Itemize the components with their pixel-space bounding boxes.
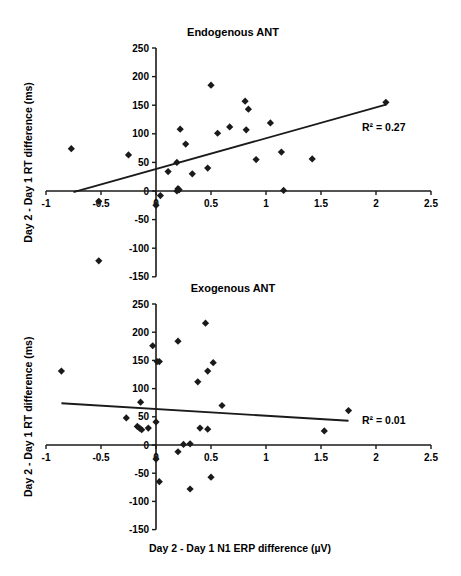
data-point xyxy=(309,155,316,162)
data-point xyxy=(182,140,189,147)
data-point xyxy=(165,168,172,175)
y-tick-label: 100 xyxy=(132,128,149,139)
data-point xyxy=(245,106,252,113)
x-tick-label: -0.5 xyxy=(92,452,110,463)
y-tick-label: -150 xyxy=(129,524,149,535)
endogenous-ant-chart: Endogenous ANT250200150100500-50-100-150… xyxy=(22,26,438,282)
data-point xyxy=(145,424,152,431)
data-point xyxy=(180,441,187,448)
figure: Endogenous ANT250200150100500-50-100-150… xyxy=(0,0,461,576)
data-point xyxy=(204,165,211,172)
y-tick-label: -150 xyxy=(129,271,149,282)
y-axis-label: Day 2 - Day 1 RT difference (ms) xyxy=(22,82,34,242)
data-point xyxy=(196,424,203,431)
data-point xyxy=(152,418,159,425)
x-tick-label: 2.5 xyxy=(424,198,438,209)
y-tick-label: 200 xyxy=(132,327,149,338)
data-point xyxy=(68,145,75,152)
x-tick-label: 1 xyxy=(263,452,269,463)
data-point xyxy=(204,426,211,433)
y-tick-label: 250 xyxy=(132,43,149,54)
x-tick-label: 0.5 xyxy=(204,198,218,209)
data-point xyxy=(207,474,214,481)
data-point xyxy=(95,257,102,264)
data-point xyxy=(177,126,184,133)
r-squared-label: R² = 0.27 xyxy=(362,121,406,133)
r-squared-label: R² = 0.01 xyxy=(362,414,406,426)
data-point xyxy=(214,130,221,137)
x-tick-label: 0.5 xyxy=(204,452,218,463)
data-point xyxy=(321,427,328,434)
data-point xyxy=(58,368,65,375)
y-tick-label: -100 xyxy=(129,243,149,254)
data-point xyxy=(218,402,225,409)
y-tick-label: -100 xyxy=(129,496,149,507)
data-point xyxy=(267,119,274,126)
data-point xyxy=(202,320,209,327)
chart-title: Endogenous ANT xyxy=(187,26,279,38)
x-tick-label: -0.5 xyxy=(92,198,110,209)
x-tick-label: 2 xyxy=(373,198,379,209)
data-point xyxy=(173,159,180,166)
data-point xyxy=(137,399,144,406)
data-point xyxy=(210,359,217,366)
x-tick-label: 1.5 xyxy=(314,198,328,209)
data-point xyxy=(204,368,211,375)
data-point xyxy=(174,448,181,455)
x-tick-label: 2.5 xyxy=(424,452,438,463)
y-tick-label: -50 xyxy=(135,468,150,479)
data-point xyxy=(207,82,214,89)
data-point xyxy=(123,414,130,421)
x-tick-label: -1 xyxy=(42,452,51,463)
data-point xyxy=(187,485,194,492)
data-point xyxy=(278,149,285,156)
y-tick-label: 200 xyxy=(132,71,149,82)
data-point xyxy=(242,98,249,105)
data-point xyxy=(243,126,250,133)
trendline xyxy=(74,105,386,193)
data-point xyxy=(345,407,352,414)
data-point xyxy=(125,151,132,158)
y-tick-label: 50 xyxy=(138,157,150,168)
y-tick-label: 100 xyxy=(132,383,149,394)
data-point xyxy=(174,338,181,345)
y-tick-label: 150 xyxy=(132,355,149,366)
y-tick-label: -50 xyxy=(135,214,150,225)
data-point xyxy=(280,187,287,194)
y-tick-label: 250 xyxy=(132,299,149,310)
x-axis-label: Day 2 - Day 1 N1 ERP difference (µV) xyxy=(149,542,331,554)
x-tick-label: 1.5 xyxy=(314,452,328,463)
data-point xyxy=(253,156,260,163)
exogenous-ant-chart: Exogenous ANT250200150100500-50-100-150-… xyxy=(22,282,438,554)
data-point xyxy=(226,123,233,130)
chart-title: Exogenous ANT xyxy=(191,282,276,294)
x-tick-label: -1 xyxy=(42,198,51,209)
data-point xyxy=(187,440,194,447)
trendline xyxy=(61,403,348,420)
data-point xyxy=(194,378,201,385)
y-tick-label: 150 xyxy=(132,100,149,111)
x-tick-label: 1 xyxy=(263,198,269,209)
y-axis-label: Day 2 - Day 1 RT difference (ms) xyxy=(22,337,34,497)
data-point xyxy=(189,170,196,177)
x-tick-label: 2 xyxy=(373,452,379,463)
y-tick-label: 50 xyxy=(138,411,150,422)
